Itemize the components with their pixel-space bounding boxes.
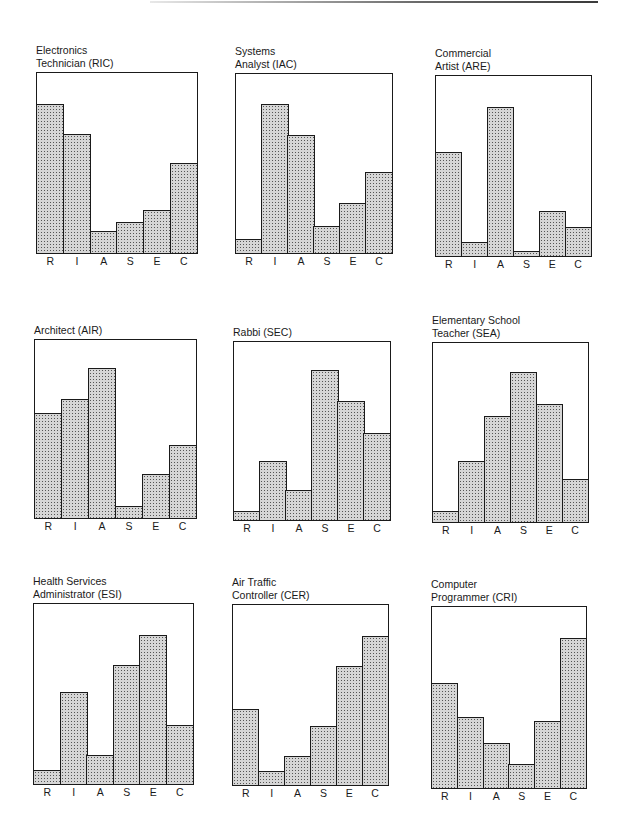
x-tick-label: I [459, 524, 485, 536]
bars [236, 74, 392, 253]
x-tick-label: E [338, 522, 364, 534]
plot-area: RIASEC [432, 342, 589, 523]
bar-i [457, 717, 484, 788]
x-axis-labels: RIASEC [436, 258, 591, 270]
bar-e [139, 635, 167, 784]
bar-s [508, 764, 535, 788]
chart-title-line: Air Traffic [232, 576, 310, 589]
bars [433, 343, 588, 522]
plot-area: RIASEC [34, 339, 197, 519]
chart-title: SystemsAnalyst (IAC) [235, 45, 297, 71]
x-tick-label: E [535, 790, 561, 802]
x-tick-label: S [310, 787, 336, 799]
x-tick-label: S [115, 520, 142, 532]
bars [37, 73, 197, 253]
x-tick-label: C [170, 255, 197, 267]
x-tick-label: A [87, 786, 114, 798]
chart-title: ElectronicsTechnician (RIC) [36, 44, 114, 70]
x-tick-label: R [234, 522, 260, 534]
x-tick-label: C [565, 258, 591, 270]
chart-title-line: Analyst (IAC) [235, 58, 297, 71]
x-tick-label: E [142, 520, 169, 532]
chart-title-line: Technician (RIC) [36, 57, 114, 70]
chart-title-line: Computer [431, 578, 517, 591]
bar-r [233, 709, 259, 785]
bar-e [337, 401, 365, 520]
x-axis-labels: RIASEC [37, 255, 197, 267]
bar-i [259, 461, 287, 520]
x-tick-label: A [488, 258, 514, 270]
chart-title-line: Systems [235, 45, 297, 58]
x-axis-labels: RIASEC [35, 520, 196, 532]
x-tick-label: C [167, 786, 194, 798]
page-top-rule [150, 1, 598, 3]
bar-a [483, 743, 510, 788]
bar-e [142, 474, 170, 519]
x-axis-labels: RIASEC [236, 255, 392, 267]
bar-e [339, 203, 367, 253]
bar-s [115, 506, 143, 518]
x-tick-label: S [312, 522, 338, 534]
bar-c [169, 445, 196, 518]
bar-r [35, 413, 62, 518]
chart-title-line: Programmer (CRI) [431, 591, 517, 604]
x-tick-label: S [314, 255, 340, 267]
bar-s [311, 370, 339, 520]
chart-title: Elementary SchoolTeacher (SEA) [432, 314, 520, 340]
x-tick-label: E [140, 786, 167, 798]
bar-i [61, 399, 89, 518]
plot-area: RIASEC [431, 606, 587, 789]
bar-s [113, 665, 141, 784]
bar-s [116, 222, 144, 253]
chart-title: Architect (AIR) [34, 324, 102, 337]
chart-title-line: Architect (AIR) [34, 324, 102, 337]
x-tick-label: S [117, 255, 144, 267]
x-tick-label: E [144, 255, 171, 267]
x-axis-labels: RIASEC [432, 790, 586, 802]
bar-s [510, 372, 537, 522]
x-axis-labels: RIASEC [233, 787, 388, 799]
bar-c [170, 163, 197, 253]
bar-c [560, 638, 586, 788]
x-tick-label: E [336, 787, 362, 799]
chart-title: CommercialArtist (ARE) [435, 47, 491, 73]
plot-area: RIASEC [232, 604, 389, 786]
x-tick-label: I [61, 786, 88, 798]
chart-title-line: Artist (ARE) [435, 60, 491, 73]
bar-c [362, 636, 388, 785]
plot-area: RIASEC [33, 603, 194, 785]
x-tick-label: R [236, 255, 262, 267]
bar-c [363, 433, 390, 520]
bar-i [63, 134, 91, 253]
x-tick-label: I [462, 258, 488, 270]
plot-area: RIASEC [435, 75, 592, 257]
x-tick-label: I [262, 255, 288, 267]
chart-title: Air TrafficController (CER) [232, 576, 310, 602]
x-tick-label: S [509, 790, 535, 802]
x-tick-label: S [513, 258, 539, 270]
bar-r [436, 152, 462, 256]
bar-c [565, 227, 591, 256]
x-tick-label: C [364, 522, 390, 534]
plot-area: RIASEC [36, 72, 198, 254]
x-tick-label: A [288, 255, 314, 267]
x-tick-label: I [458, 790, 484, 802]
x-tick-label: I [64, 255, 91, 267]
bars [233, 605, 388, 785]
x-tick-label: R [37, 255, 64, 267]
bars [436, 76, 591, 256]
plot-area: RIASEC [235, 73, 393, 254]
chart-title-line: Electronics [36, 44, 114, 57]
bar-r [34, 770, 61, 784]
chart-title: ComputerProgrammer (CRI) [431, 578, 517, 604]
bar-a [90, 231, 118, 253]
x-axis-labels: RIASEC [433, 524, 588, 536]
x-tick-label: R [436, 258, 462, 270]
x-tick-label: C [362, 787, 388, 799]
bar-a [86, 755, 114, 784]
x-tick-label: I [259, 787, 285, 799]
bar-i [458, 461, 485, 522]
bars [432, 607, 586, 788]
chart-title-line: Administrator (ESI) [33, 588, 122, 601]
bar-c [562, 479, 588, 522]
